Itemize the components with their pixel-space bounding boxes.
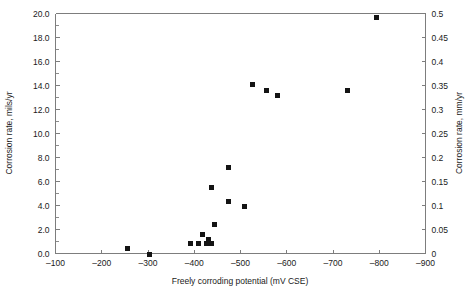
y-tick-label: 2.0 [38,225,50,235]
y2-tick-label: 0.35 [432,81,449,91]
data-point-marker [242,204,247,209]
data-point-marker [226,199,231,204]
y-axis-left-title: Corrosion rate, mils/yr [4,91,14,174]
chart-canvas: –100–200–300–400–500–600–700–800–900 0.0… [0,0,471,290]
y2-tick-label: 0.4 [432,57,444,67]
y-tick-label: 6.0 [38,177,50,187]
y2-tick-label: 0.15 [432,177,449,187]
y-tick-label: 4.0 [38,201,50,211]
data-point-marker [209,185,214,190]
y2-tick-label: 0.3 [432,105,444,115]
x-tick-label: –500 [231,258,250,268]
x-tick-label: –800 [370,258,389,268]
y-tick-label: 12.0 [33,105,50,115]
data-point-marker [188,241,193,246]
data-points [125,15,380,257]
data-point-marker [212,222,217,227]
y2-tick-label: 0 [432,249,437,259]
data-point-marker [226,165,231,170]
x-tick-label: –600 [277,258,296,268]
data-point-marker [147,252,152,257]
x-tick-label: –900 [416,258,435,268]
y-axis-right-title: Corrosion rate, mm/yr [454,92,464,174]
y2-tick-label: 0.2 [432,153,444,163]
y-tick-label: 20.0 [33,9,50,19]
scatter-chart: –100–200–300–400–500–600–700–800–900 0.0… [0,0,471,290]
data-point-marker [206,237,211,242]
data-point-marker [250,82,255,87]
x-tick-label: –400 [185,258,204,268]
y2-tick-label: 0.25 [432,129,449,139]
data-point-marker [275,93,280,98]
data-point-marker [196,241,201,246]
y-tick-label: 10.0 [33,129,50,139]
y2-tick-label: 0.1 [432,201,444,211]
y2-tick-label: 0.45 [432,33,449,43]
data-point-marker [125,246,130,251]
data-point-marker [374,15,379,20]
x-tick-label: –100 [46,258,65,268]
y-tick-label: 8.0 [38,153,50,163]
x-axis-ticks: –100–200–300–400–500–600–700–800–900 [46,250,435,268]
y-tick-label: 16.0 [33,57,50,67]
x-tick-label: –200 [92,258,111,268]
y-tick-label: 18.0 [33,33,50,43]
data-point-marker [345,88,350,93]
y-tick-label: 0.0 [38,249,50,259]
x-tick-label: –300 [139,258,158,268]
y2-tick-label: 0.05 [432,225,449,235]
data-point-marker [200,232,205,237]
y-tick-label: 14.0 [33,81,50,91]
plot-frame [56,14,426,254]
x-tick-label: –700 [324,258,343,268]
y2-tick-label: 0.5 [432,9,444,19]
data-point-marker [264,88,269,93]
x-axis-title: Freely corroding potential (mV CSE) [172,276,309,286]
